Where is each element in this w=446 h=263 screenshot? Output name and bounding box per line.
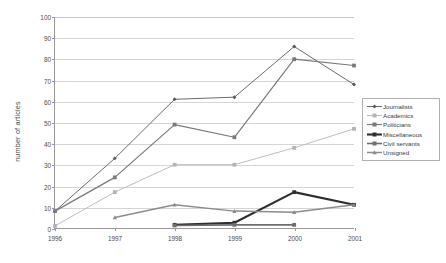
legend-swatch-icon bbox=[366, 130, 383, 139]
y-tick-label: 10 bbox=[44, 204, 51, 211]
data-point bbox=[173, 224, 177, 228]
legend-swatch-icon bbox=[366, 111, 383, 120]
legend-item-label: Miscellaneous bbox=[383, 130, 422, 139]
data-point bbox=[292, 190, 296, 194]
x-tick-label: 2001 bbox=[348, 235, 362, 242]
legend-item-label: Civil servants bbox=[383, 139, 420, 148]
y-tick-label: 20 bbox=[44, 183, 51, 190]
legend-item-label: Politicians bbox=[383, 120, 411, 129]
x-tick-label: 1996 bbox=[48, 235, 62, 242]
y-tick-label: 60 bbox=[44, 98, 51, 105]
data-point bbox=[352, 127, 356, 131]
data-point bbox=[173, 123, 177, 127]
legend-item-label: Academics bbox=[383, 111, 413, 120]
y-tick-label: 40 bbox=[44, 141, 51, 148]
series-unsigned bbox=[113, 203, 356, 220]
data-point bbox=[113, 190, 117, 194]
legend-swatch-icon bbox=[366, 148, 383, 157]
data-point bbox=[292, 57, 296, 61]
legend-item-academics[interactable]: Academics bbox=[366, 111, 437, 120]
legend-swatch-icon bbox=[366, 102, 383, 111]
y-tick-label: 0 bbox=[47, 226, 51, 233]
x-tick-label: 1998 bbox=[168, 235, 182, 242]
legend-item-label: Unsigned bbox=[383, 148, 409, 157]
x-tick-mark bbox=[295, 228, 296, 231]
y-tick-label: 100 bbox=[40, 14, 51, 21]
data-point bbox=[173, 163, 177, 167]
series-politicians bbox=[53, 57, 356, 213]
data-point bbox=[53, 209, 57, 213]
data-point bbox=[233, 163, 237, 167]
x-tick-mark bbox=[175, 228, 176, 231]
legend-item-unsigned[interactable]: Unsigned bbox=[366, 148, 437, 157]
y-tick-label: 80 bbox=[44, 56, 51, 63]
y-axis-title: number of articles bbox=[8, 0, 26, 263]
legend-swatch-icon bbox=[366, 120, 383, 129]
x-tick-mark bbox=[55, 228, 56, 231]
x-tick-label: 1997 bbox=[108, 235, 122, 242]
legend-item-civil-servants[interactable]: Civil servants bbox=[366, 139, 437, 148]
y-tick-label: 70 bbox=[44, 77, 51, 84]
data-point bbox=[53, 224, 57, 228]
x-tick-label: 2000 bbox=[288, 235, 302, 242]
y-tick-label: 90 bbox=[44, 35, 51, 42]
data-point bbox=[352, 64, 356, 68]
data-point bbox=[292, 223, 296, 227]
y-axis-title-label: number of articles bbox=[13, 101, 22, 162]
y-tick-label: 30 bbox=[44, 162, 51, 169]
x-tick-mark bbox=[355, 228, 356, 231]
series-line bbox=[55, 59, 354, 211]
legend-swatch-icon bbox=[366, 139, 383, 148]
data-point bbox=[233, 223, 237, 227]
legend-item-label: Journalists bbox=[383, 102, 413, 111]
x-tick-mark bbox=[115, 228, 116, 231]
x-tick-label: 1999 bbox=[228, 235, 242, 242]
legend-item-journalists[interactable]: Journalists bbox=[366, 102, 437, 111]
series-layer bbox=[55, 17, 354, 228]
legend: JournalistsAcademicsPoliticiansMiscellan… bbox=[362, 98, 440, 161]
data-point bbox=[113, 175, 117, 179]
legend-item-miscellaneous[interactable]: Miscellaneous bbox=[366, 130, 437, 139]
series-line bbox=[55, 129, 354, 226]
legend-item-politicians[interactable]: Politicians bbox=[366, 120, 437, 129]
y-tick-label: 50 bbox=[44, 120, 51, 127]
x-tick-mark bbox=[235, 228, 236, 231]
data-point bbox=[233, 135, 237, 139]
plot-area: 0102030405060708090100 19961997199819992… bbox=[54, 17, 354, 229]
line-chart: number of articles 010203040506070809010… bbox=[0, 0, 446, 263]
series-academics bbox=[53, 127, 356, 228]
data-point bbox=[292, 146, 296, 150]
series-journalists bbox=[53, 45, 356, 214]
